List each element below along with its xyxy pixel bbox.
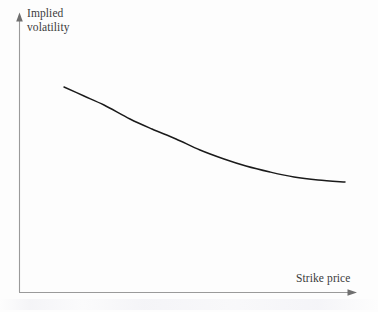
implied-volatility-curve: [64, 87, 345, 182]
y-axis-label: Implied volatility: [27, 7, 70, 34]
x-axis-label: Strike price: [296, 272, 351, 286]
y-axis-label-line1: Implied: [27, 7, 63, 19]
x-axis-arrowhead: [348, 289, 358, 296]
volatility-skew-figure: Implied volatility Strike price: [0, 0, 378, 312]
chart-canvas: [0, 0, 378, 312]
y-axis-label-line2: volatility: [27, 21, 70, 35]
y-axis-arrowhead: [16, 13, 23, 22]
